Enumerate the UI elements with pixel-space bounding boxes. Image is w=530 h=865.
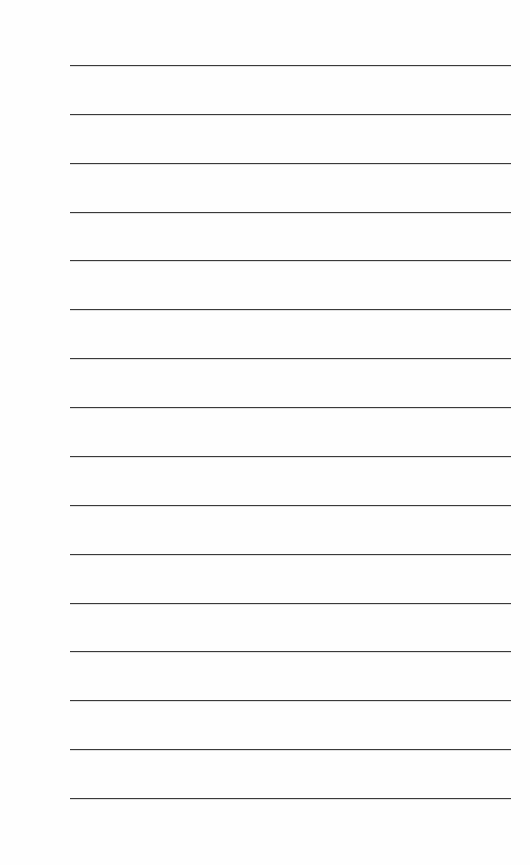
line-text[interactable]	[72, 46, 509, 66]
line-text[interactable]	[72, 95, 509, 115]
line-text[interactable]	[72, 632, 509, 652]
line-text[interactable]	[72, 437, 509, 457]
line-text[interactable]	[72, 681, 509, 701]
ruled-line	[70, 65, 511, 66]
line-text[interactable]	[72, 388, 509, 408]
ruled-line	[70, 163, 511, 164]
ruled-line	[70, 749, 511, 750]
ruled-line	[70, 358, 511, 359]
line-text[interactable]	[72, 144, 509, 164]
ruled-line	[70, 505, 511, 506]
ruled-line	[70, 260, 511, 261]
lined-paper-page	[0, 0, 530, 865]
line-text[interactable]	[72, 339, 509, 359]
ruled-line	[70, 212, 511, 213]
ruled-line	[70, 554, 511, 555]
ruled-line	[70, 114, 511, 115]
line-text[interactable]	[72, 486, 509, 506]
line-text[interactable]	[72, 584, 509, 604]
ruled-line	[70, 700, 511, 701]
line-text[interactable]	[72, 290, 509, 310]
line-text[interactable]	[72, 730, 509, 750]
ruled-line	[70, 407, 511, 408]
ruled-line	[70, 456, 511, 457]
ruled-line	[70, 651, 511, 652]
ruled-line	[70, 798, 511, 799]
line-text[interactable]	[72, 241, 509, 261]
line-text[interactable]	[72, 535, 509, 555]
line-text[interactable]	[72, 779, 509, 799]
ruled-line	[70, 309, 511, 310]
ruled-line	[70, 603, 511, 604]
line-text[interactable]	[72, 193, 509, 213]
